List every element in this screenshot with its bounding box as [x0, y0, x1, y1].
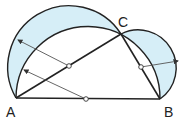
label-a: A — [6, 104, 16, 120]
midpoint-ac — [67, 64, 72, 69]
geometry-diagram: A B C — [0, 0, 187, 122]
lune-ac — [8, 6, 121, 98]
label-b: B — [164, 104, 173, 120]
lune-cb — [121, 30, 176, 99]
midpoint-cb — [139, 65, 144, 70]
label-c: C — [118, 14, 128, 30]
midpoint-ab — [84, 97, 89, 102]
